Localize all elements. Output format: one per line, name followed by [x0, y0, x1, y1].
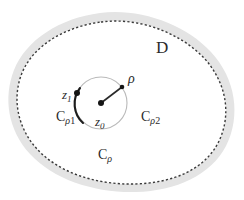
radius-endpoint-marker: [120, 85, 125, 90]
label-arc-c-rho-1-sub-num: 1: [70, 115, 75, 126]
label-arc-c-rho-2: Cρ2: [141, 110, 160, 124]
label-point-z1-sub: 1: [67, 94, 72, 104]
figure-container: D ρ z1 z0 Cρ1 Cρ2 Cρ: [0, 0, 244, 200]
label-arc-c-rho-1-base: C: [56, 109, 65, 124]
label-circle-c-rho: Cρ: [98, 148, 112, 162]
point-z1-marker: [74, 90, 80, 96]
label-arc-c-rho-1: Cρ1: [56, 110, 75, 124]
label-point-z0-sub: 0: [100, 121, 105, 131]
label-domain-D: D: [156, 39, 168, 56]
domain-diagram-svg: [0, 0, 244, 200]
label-point-z1: z1: [62, 88, 72, 101]
label-circle-c-rho-sub: ρ: [107, 153, 112, 164]
label-point-z0: z0: [95, 115, 105, 128]
point-z0-marker: [98, 100, 104, 106]
label-arc-c-rho-2-base: C: [141, 109, 150, 124]
label-radius-rho: ρ: [128, 72, 135, 86]
label-arc-c-rho-2-sub-num: 2: [155, 115, 160, 126]
label-circle-c-rho-base: C: [98, 147, 107, 162]
